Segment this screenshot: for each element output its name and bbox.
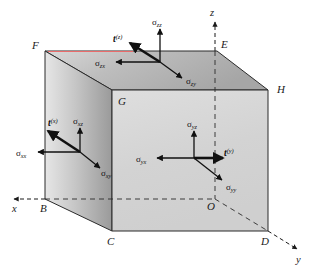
vertex-label-D: D bbox=[260, 235, 269, 247]
stress-cube-figure: z x y F E H G B C D O σzz bbox=[0, 0, 316, 270]
vertex-label-E: E bbox=[220, 38, 228, 50]
vertex-label-O: O bbox=[207, 200, 215, 212]
label-sigma-zz: σzz bbox=[152, 17, 162, 28]
vertex-label-C: C bbox=[107, 235, 115, 247]
vertex-label-H: H bbox=[276, 83, 286, 95]
label-traction-z: t(z) bbox=[113, 33, 122, 44]
label-sigma-xx: σxx bbox=[16, 148, 27, 159]
vertex-label-F: F bbox=[31, 39, 39, 51]
vertex-label-B: B bbox=[40, 202, 47, 214]
axis-label-x: x bbox=[11, 203, 17, 214]
axis-y-line bbox=[268, 231, 297, 249]
axis-label-z: z bbox=[209, 7, 214, 18]
cube-body bbox=[45, 51, 268, 231]
axis-label-y: y bbox=[295, 254, 301, 265]
vertex-label-G: G bbox=[118, 95, 126, 107]
stress-cube-diagram: z x y F E H G B C D O σzz bbox=[0, 0, 316, 270]
